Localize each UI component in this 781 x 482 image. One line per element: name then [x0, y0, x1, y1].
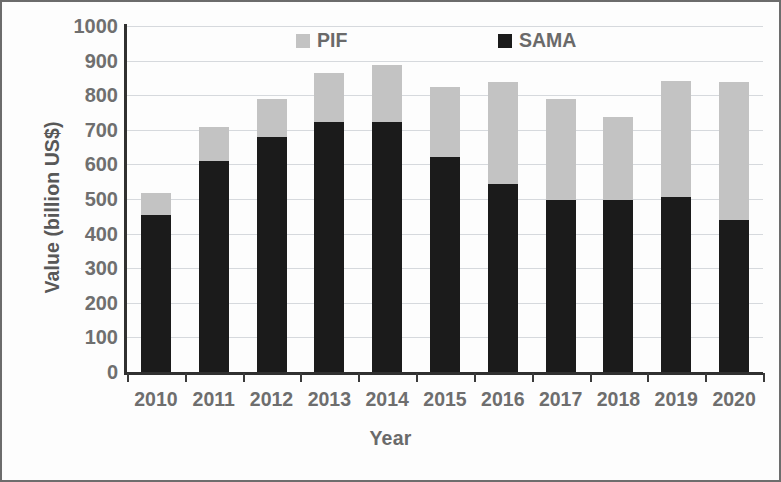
- x-axis-tick-mark: [358, 373, 360, 382]
- bar-segment-sama[interactable]: [488, 184, 518, 372]
- x-axis-tick-label: 2013: [300, 388, 358, 411]
- bar-group[interactable]: [199, 26, 229, 372]
- x-axis-tick-label: 2012: [243, 388, 301, 411]
- bar-segment-sama[interactable]: [603, 200, 633, 372]
- x-axis-tick-label: 2015: [416, 388, 474, 411]
- x-axis-tick-mark: [474, 373, 476, 382]
- y-axis-line: [124, 24, 127, 374]
- bar-segment-sama[interactable]: [546, 200, 576, 372]
- x-axis-tick-label: 2016: [474, 388, 532, 411]
- chart-figure: Value (billion US$) 01002003004005006007…: [0, 0, 781, 482]
- bar-group[interactable]: [488, 26, 518, 372]
- y-axis-tick-label: 500: [42, 189, 118, 209]
- bar-segment-pif[interactable]: [257, 99, 287, 137]
- y-axis-tick-label: 200: [42, 293, 118, 313]
- bar-segment-sama[interactable]: [141, 215, 171, 372]
- x-axis-line: [124, 372, 763, 375]
- bar-segment-pif[interactable]: [546, 99, 576, 200]
- x-axis-tick-label: 2019: [647, 388, 705, 411]
- legend-swatch-sama-icon: [498, 34, 512, 48]
- bar-group[interactable]: [719, 26, 749, 372]
- y-axis-tick-label: 800: [42, 85, 118, 105]
- y-axis-tick-labels: 01002003004005006007008009001000: [34, 0, 118, 482]
- x-axis-tick-mark: [705, 373, 707, 382]
- figure-border-top: [0, 0, 781, 2]
- y-axis-tick-label: 700: [42, 120, 118, 140]
- bar-segment-pif[interactable]: [314, 73, 344, 122]
- bar-segment-pif[interactable]: [488, 82, 518, 184]
- x-axis-tick-label: 2018: [590, 388, 648, 411]
- bar-group[interactable]: [141, 26, 171, 372]
- bar-segment-sama[interactable]: [430, 157, 460, 372]
- bar-segment-sama[interactable]: [661, 197, 691, 372]
- bar-group[interactable]: [314, 26, 344, 372]
- bar-segment-pif[interactable]: [141, 193, 171, 215]
- x-axis-tick-label: 2020: [705, 388, 763, 411]
- bar-segment-pif[interactable]: [719, 82, 749, 220]
- legend-entry-pif[interactable]: PIF: [296, 31, 347, 51]
- x-axis-tick-label: 2011: [185, 388, 243, 411]
- x-axis-tick-mark: [300, 373, 302, 382]
- x-axis-tick-mark: [185, 373, 187, 382]
- bar-group[interactable]: [430, 26, 460, 372]
- x-axis-tick-mark: [763, 373, 765, 382]
- x-axis-tick-mark: [243, 373, 245, 382]
- y-axis-tick-label: 400: [42, 224, 118, 244]
- x-axis-tick-mark: [647, 373, 649, 382]
- bar-segment-sama[interactable]: [372, 122, 402, 372]
- x-axis-tick-label: 2017: [532, 388, 590, 411]
- x-axis-tick-mark: [532, 373, 534, 382]
- y-axis-tick-label: 100: [42, 327, 118, 347]
- bar-group[interactable]: [603, 26, 633, 372]
- x-axis-tick-mark: [127, 373, 129, 382]
- bar-group[interactable]: [257, 26, 287, 372]
- bar-group[interactable]: [661, 26, 691, 372]
- y-axis-tick-label: 600: [42, 154, 118, 174]
- x-axis-tick-mark: [590, 373, 592, 382]
- x-axis-title: Year: [0, 427, 781, 450]
- x-axis-tick-mark: [416, 373, 418, 382]
- figure-border-left: [0, 0, 2, 482]
- bar-segment-sama[interactable]: [719, 220, 749, 372]
- bar-segment-pif[interactable]: [372, 65, 402, 122]
- bar-group[interactable]: [546, 26, 576, 372]
- bar-segment-sama[interactable]: [199, 161, 229, 372]
- bar-segment-sama[interactable]: [257, 137, 287, 372]
- plot-area: [127, 26, 763, 372]
- y-axis-tick-label: 300: [42, 258, 118, 278]
- bar-segment-pif[interactable]: [603, 117, 633, 200]
- x-axis-tick-label: 2010: [127, 388, 185, 411]
- legend-entry-sama[interactable]: SAMA: [498, 31, 576, 51]
- bar-segment-sama[interactable]: [314, 122, 344, 372]
- legend-label-sama: SAMA: [519, 31, 576, 51]
- bar-segment-pif[interactable]: [430, 87, 460, 157]
- legend-swatch-pif-icon: [296, 34, 310, 48]
- y-axis-tick-label: 0: [42, 362, 118, 382]
- legend-label-pif: PIF: [317, 31, 347, 51]
- x-axis-tick-label: 2014: [358, 388, 416, 411]
- bar-segment-pif[interactable]: [199, 127, 229, 161]
- bar-group[interactable]: [372, 26, 402, 372]
- bar-segment-pif[interactable]: [661, 81, 691, 197]
- chart-legend: PIF SAMA: [0, 31, 781, 57]
